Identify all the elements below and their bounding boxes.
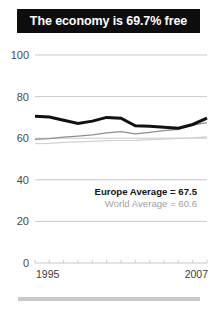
- series-line-europe-average: [35, 123, 207, 140]
- y-tick-label-60: 60: [17, 132, 29, 144]
- x-tick-label-end: 2007: [185, 268, 209, 280]
- legend-europe-average: Europe Average = 67.5: [0, 186, 207, 198]
- chart-legend: Europe Average = 67.5 World Average = 60…: [0, 186, 207, 211]
- y-axis-tick-labels: 020406080100: [11, 49, 29, 269]
- bottom-divider: [18, 297, 200, 301]
- line-chart-svg: 020406080100 19952007: [0, 0, 217, 311]
- x-axis-tick-labels: 19952007: [36, 268, 208, 280]
- y-tick-label-0: 0: [23, 257, 29, 269]
- y-tick-label-80: 80: [17, 91, 29, 103]
- series-line-country: [35, 116, 207, 128]
- chart-area: 020406080100 19952007: [0, 0, 217, 311]
- y-tick-label-40: 40: [17, 174, 29, 186]
- series-lines: [35, 116, 207, 143]
- x-tick-label-start: 1995: [36, 268, 60, 280]
- legend-world-average: World Average = 60.6: [0, 198, 207, 210]
- y-tick-label-20: 20: [17, 215, 29, 227]
- gridlines: [35, 55, 207, 263]
- y-tick-label-100: 100: [11, 49, 29, 61]
